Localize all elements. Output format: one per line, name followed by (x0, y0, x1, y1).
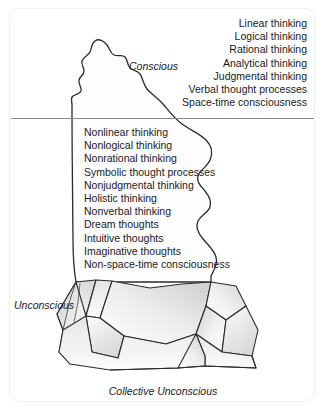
list-item: Dream thoughts (84, 218, 230, 231)
region-label-collective-unconscious: Collective Unconscious (0, 385, 326, 397)
conscious-attributes-list: Linear thinking Logical thinking Rationa… (182, 17, 307, 109)
list-item: Nonlogical thinking (84, 139, 230, 152)
list-item: Linear thinking (182, 17, 307, 30)
list-item: Nonlinear thinking (84, 126, 230, 139)
list-item: Non-space-time consciousness (84, 258, 230, 271)
unconscious-attributes-list: Nonlinear thinking Nonlogical thinking N… (84, 126, 230, 271)
list-item: Intuitive thoughts (84, 232, 230, 245)
list-item: Verbal thought processes (182, 83, 307, 96)
list-item: Logical thinking (182, 30, 307, 43)
list-item: Nonjudgmental thinking (84, 179, 230, 192)
list-item: Imaginative thoughts (84, 245, 230, 258)
list-item: Judgmental thinking (182, 70, 307, 83)
list-item: Nonverbal thinking (84, 205, 230, 218)
list-item: Analytical thinking (182, 57, 307, 70)
list-item: Nonrational thinking (84, 152, 230, 165)
list-item: Holistic thinking (84, 192, 230, 205)
text-layer: Linear thinking Logical thinking Rationa… (0, 0, 326, 412)
region-label-conscious: Conscious (129, 60, 178, 72)
region-label-unconscious: Unconscious (14, 299, 74, 311)
list-item: Symbolic thought processes (84, 166, 230, 179)
list-item: Space-time consciousness (182, 96, 307, 109)
list-item: Rational thinking (182, 43, 307, 56)
iceberg-diagram: Linear thinking Logical thinking Rationa… (0, 0, 326, 412)
